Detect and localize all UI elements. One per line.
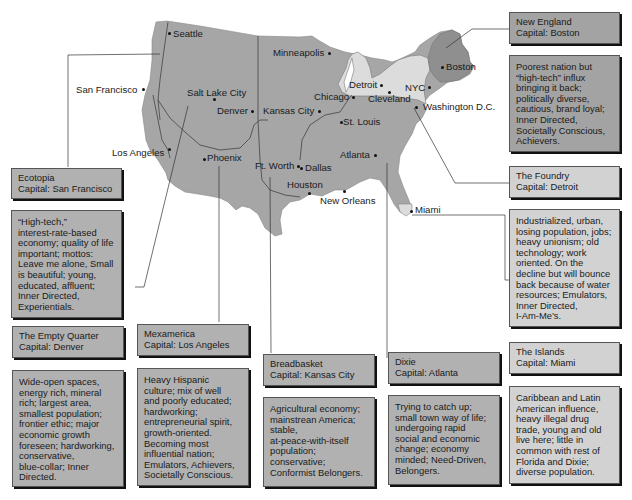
mexamerica-description: Heavy Hispanic culture; mix of well and … <box>137 368 249 486</box>
dixie-description: Trying to catch up; small town way of li… <box>388 395 500 485</box>
mexamerica-title-box: Mexamerica Capital: Los Angeles <box>137 324 249 356</box>
foundry-description: Industrialized, urban, losing population… <box>509 209 620 327</box>
breadbasket-title-box: Breadbasket Capital: Kansas City <box>263 354 375 386</box>
islands-description: Caribbean and Latin American influence, … <box>509 386 620 484</box>
islands-title-box: The Islands Capital: Miami <box>509 342 620 374</box>
foundry-title-box: The Foundry Capital: Detroit <box>509 166 620 198</box>
dixie-title-box: Dixie Capital: Atlanta <box>388 352 500 384</box>
ecotopia-description: “High-tech,” interest-rate-based economy… <box>11 210 122 318</box>
empty-quarter-description: Wide-open spaces, energy rich, mineral r… <box>12 370 124 487</box>
breadbasket-description: Agricultural economy; mainstrean America… <box>263 397 375 487</box>
new-england-title-box: New England Capital: Boston <box>509 12 620 44</box>
empty-quarter-title-box: The Empty Quarter Capital: Denver <box>12 326 124 358</box>
ecotopia-title-box: Ecotopia Capital: San Francisco <box>11 168 122 199</box>
new-england-description: Poorest nation but “high-tech” influx br… <box>509 55 620 152</box>
